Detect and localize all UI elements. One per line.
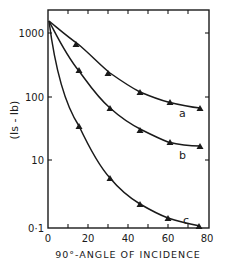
x-axis-title: 90°-ANGLE OF INCIDENCE (55, 249, 201, 260)
y-axis-ticks (48, 33, 209, 160)
x-tick-label-60: 60 (162, 233, 175, 244)
y-tick-label-1000: 1000 (19, 28, 44, 39)
series-c-label: c (183, 214, 189, 227)
series-b-label: b (179, 149, 186, 162)
x-tick-label-0: 0 (45, 233, 51, 244)
y-tick-label-10: 10 (31, 155, 44, 166)
series-c-line (49, 21, 200, 226)
x-tick-label-40: 40 (122, 233, 135, 244)
series-a-line (49, 21, 200, 108)
y-axis-title: (Is - Ib) (8, 101, 21, 140)
chart-figure: 1000 100 10 0·1 0 20 40 60 80 90°-ANGLE … (0, 0, 225, 266)
y-tick-label-0-1: 0·1 (28, 223, 44, 234)
x-tick-label-80: 80 (201, 233, 214, 244)
series-a-label: a (179, 107, 186, 120)
x-tick-label-20: 20 (82, 233, 95, 244)
y-tick-label-100: 100 (25, 92, 44, 103)
series-a-markers (73, 41, 204, 111)
